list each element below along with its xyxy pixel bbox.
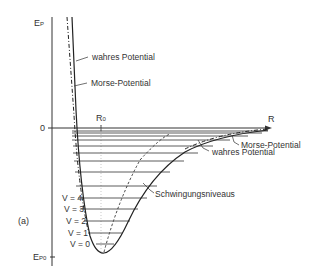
level-label-v1: V = 1 — [68, 229, 88, 238]
level-label-v4: V = 4 — [62, 194, 82, 203]
r0-label: R0 — [96, 114, 106, 123]
vibrational-levels-label: Schwingungsniveaus — [155, 190, 235, 199]
true-potential-label-right: wahres Potential — [212, 148, 275, 157]
level-label-v0: V = 0 — [70, 240, 90, 249]
level-label-v3: V = 3 — [64, 205, 84, 214]
x-axis-label: R — [268, 115, 275, 124]
level-label-v2: V = 2 — [66, 217, 86, 226]
y-axis-label: EP — [34, 19, 44, 28]
ep0-label: EP0 — [33, 253, 46, 262]
true-potential-label-upper: wahres Potential — [92, 53, 155, 62]
zero-label: 0 — [40, 124, 45, 133]
morse-potential-label-upper: Morse-Potential — [91, 79, 151, 88]
potential-diagram — [0, 0, 321, 275]
panel-label: (a) — [18, 217, 29, 226]
